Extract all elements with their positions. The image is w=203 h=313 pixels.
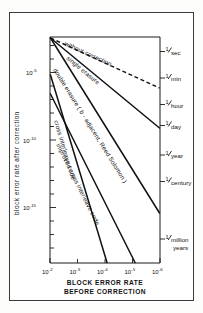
right-tick-unit-7: years	[173, 244, 188, 251]
right-tick-label-century: 1 century	[166, 176, 193, 186]
svg-text:10-5: 10-5	[125, 267, 136, 275]
right-tick-numerator-0: 1	[166, 46, 169, 52]
x-tick-exponent-4: -6	[159, 267, 163, 272]
svg-text:10-3: 10-3	[70, 267, 81, 275]
x-axis-title-line2: BEFORE CORRECTION	[64, 288, 146, 295]
y-tick-exponent-2: -15	[30, 203, 37, 208]
x-tick-labels: 10-2 10-3 10-4 10-5 10-6	[42, 267, 163, 275]
x-axis-title-line1: BLOCK ERROR RATE	[67, 279, 143, 286]
svg-text:10-2: 10-2	[42, 267, 53, 275]
svg-text:10-10: 10-10	[23, 136, 37, 144]
right-tick-label-min: 1 min	[166, 73, 182, 83]
x-axis-ticks	[50, 258, 160, 263]
right-tick-unit-5: century	[171, 179, 192, 186]
figure-container: 10-5 10-10 10-15 block error rate after …	[0, 0, 203, 313]
svg-text:10-5: 10-5	[26, 68, 37, 76]
chart-canvas: 10-5 10-10 10-15 block error rate after …	[0, 0, 203, 313]
series-label-double-erasure: double erasure ( b - adjacent, Reed Solo…	[52, 67, 129, 184]
right-tick-numerator-4: 1	[166, 150, 169, 156]
right-axis-labels: 1 sec 1 min 1 hour 1 day 1	[166, 46, 193, 251]
right-tick-unit-0: sec	[171, 49, 181, 56]
svg-text:10-6: 10-6	[152, 267, 163, 275]
right-tick-unit-6: million	[171, 236, 189, 243]
right-tick-numerator-6: 1	[166, 234, 169, 240]
y-axis-title: block error rate after correction	[13, 111, 20, 215]
right-tick-numerator-5: 1	[166, 176, 169, 182]
right-tick-numerator-3: 1	[166, 120, 169, 126]
right-axis-ticks	[160, 52, 165, 240]
x-tick-exponent-2: -4	[104, 267, 108, 272]
right-tick-label-day: 1 day	[166, 120, 182, 130]
right-tick-numerator-2: 1	[166, 99, 169, 105]
x-axis-title: BLOCK ERROR RATE BEFORE CORRECTION	[64, 279, 146, 295]
right-tick-numerator-1: 1	[166, 73, 169, 79]
x-tick-exponent-0: -2	[49, 267, 53, 272]
y-tick-exponent-1: -10	[30, 136, 37, 141]
right-tick-unit-3: day	[171, 123, 182, 130]
right-tick-label-million-years: 1 million years	[166, 234, 190, 251]
right-tick-unit-2: hour	[171, 102, 183, 109]
right-tick-label-sec: 1 sec	[166, 46, 181, 56]
x-tick-exponent-1: -3	[76, 267, 80, 272]
svg-text:10-4: 10-4	[97, 267, 108, 275]
right-tick-label-year: 1 year	[166, 150, 184, 160]
y-tick-labels: 10-5 10-10 10-15	[23, 68, 37, 211]
x-tick-exponent-3: -5	[131, 267, 135, 272]
right-tick-unit-1: min	[171, 75, 182, 82]
series-label-improved-cross-interleave: improved cross interleave code	[55, 142, 102, 226]
right-tick-label-hour: 1 hour	[166, 99, 184, 109]
y-tick-exponent-0: -5	[33, 68, 37, 73]
right-tick-unit-4: year	[171, 152, 183, 159]
svg-text:10-15: 10-15	[23, 203, 37, 211]
series-labels: without correction single erasure double…	[52, 39, 129, 226]
